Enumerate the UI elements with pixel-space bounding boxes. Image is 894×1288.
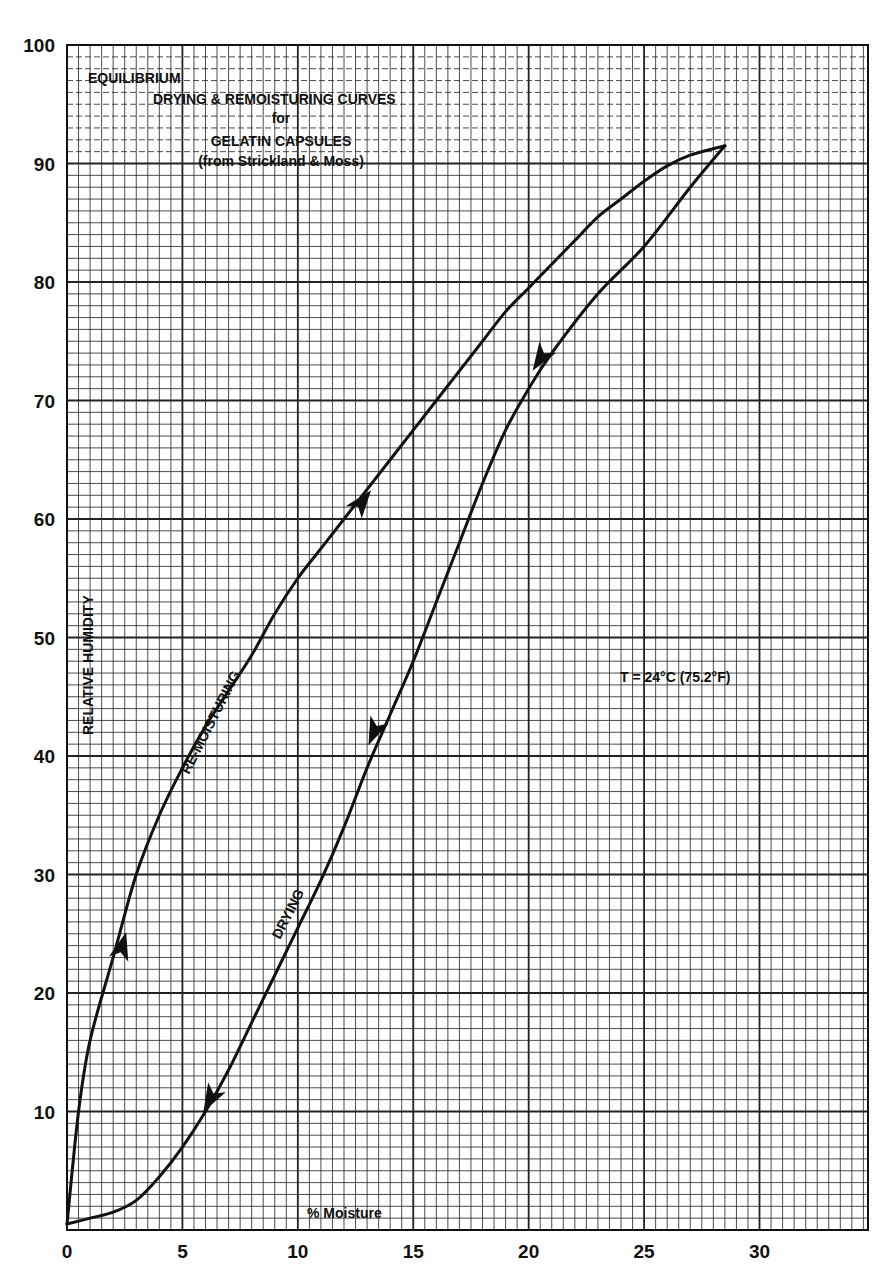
remoisturing-label: RE-MOISTURING [177,668,243,777]
x-tick-label: 15 [403,1241,425,1262]
chart: 051015202530 102030405060708090100 EQUIL… [0,0,894,1288]
title-line-2: DRYING & REMOISTURING CURVES [153,91,396,107]
title-line-5: (from Strickland & Moss) [198,153,364,169]
temperature-annotation: T = 24°C (75.2°F) [620,669,730,685]
x-axis-label: % Moisture [307,1205,382,1221]
y-axis-label: RELATIVE HUMIDITY [80,595,96,735]
y-tick-label: 60 [34,509,55,530]
chart-title: EQUILIBRIUM DRYING & REMOISTURING CURVES… [88,70,396,169]
y-tick-label: 80 [34,272,55,293]
y-tick-label: 50 [34,628,55,649]
title-line-4: GELATIN CAPSULES [211,133,352,149]
arrow-icon [346,484,379,518]
y-tick-label: 40 [34,746,55,767]
y-axis-ticks: 102030405060708090100 [23,35,55,1123]
title-line-3: for [272,110,291,126]
x-tick-label: 10 [287,1241,308,1262]
x-axis-ticks: 051015202530 [62,1241,770,1262]
y-tick-label: 30 [34,865,55,886]
drying-label: DRYING [268,886,307,941]
x-tick-label: 25 [634,1241,656,1262]
x-tick-label: 5 [177,1241,188,1262]
x-tick-label: 0 [62,1241,73,1262]
x-tick-label: 20 [518,1241,539,1262]
y-tick-label: 20 [34,983,55,1004]
y-tick-label: 100 [23,35,55,56]
y-tick-label: 70 [34,391,55,412]
y-tick-label: 10 [34,1102,55,1123]
y-tick-label: 90 [34,154,55,175]
x-tick-label: 30 [749,1241,770,1262]
title-line-1: EQUILIBRIUM [88,70,181,86]
